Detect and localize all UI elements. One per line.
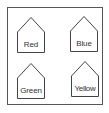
house-label: Green	[17, 86, 45, 95]
house-label: Red	[17, 40, 45, 49]
house-yellow: Yellow	[71, 61, 99, 97]
house-label: Blue	[70, 39, 98, 48]
diagram-frame: Red Blue Green Yellow	[7, 7, 103, 105]
house-red: Red	[17, 17, 45, 53]
house-green: Green	[17, 63, 45, 99]
house-blue: Blue	[70, 16, 98, 52]
house-label: Yellow	[71, 84, 99, 93]
